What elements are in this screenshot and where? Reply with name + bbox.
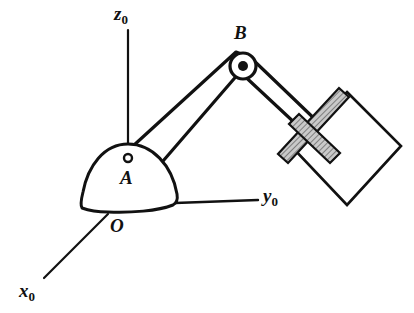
- diagram-canvas: [0, 0, 414, 313]
- shoulder-joint-label: A: [120, 168, 133, 187]
- y-axis-label: y0: [263, 186, 278, 205]
- y-axis-subscript: 0: [271, 194, 278, 209]
- elbow-joint-label: B: [234, 23, 247, 42]
- elbow-joint-marker: [238, 61, 248, 71]
- x-axis-subscript: 0: [29, 289, 36, 304]
- y-axis-line: [175, 200, 258, 203]
- x-axis-label: x0: [19, 281, 35, 300]
- z-axis-label: z0: [114, 4, 128, 23]
- x-axis-line: [44, 214, 108, 278]
- workpiece-square: [292, 92, 401, 205]
- z-axis-subscript: 0: [121, 12, 128, 27]
- robot-diagram: z0 y0 x0 O A B: [0, 0, 414, 313]
- origin-label: O: [110, 216, 124, 235]
- shoulder-joint-marker: [124, 154, 132, 162]
